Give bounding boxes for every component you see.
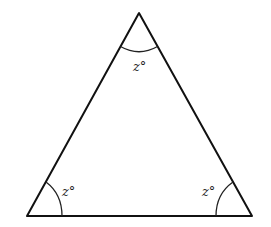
triangle-diagram: z° z° z° — [0, 0, 271, 227]
bottom-right-angle-label: z° — [201, 184, 215, 199]
top-angle-label: z° — [132, 59, 146, 74]
bottom-left-angle-label: z° — [61, 184, 75, 199]
bottom-left-angle-arc — [46, 182, 62, 216]
bottom-right-angle-arc — [216, 182, 233, 216]
triangle-outline — [27, 13, 252, 216]
top-angle-arc — [121, 47, 158, 52]
